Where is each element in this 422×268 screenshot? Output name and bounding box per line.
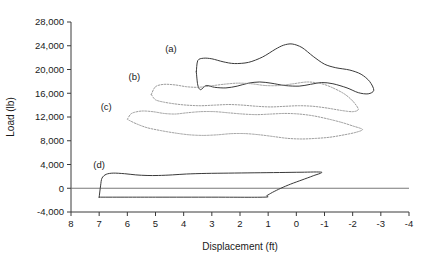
curve-group <box>99 44 374 197</box>
x-tick-label: 7 <box>97 218 102 229</box>
x-tick-label: 0 <box>294 218 299 229</box>
y-tick-label: 16,000 <box>35 88 64 99</box>
y-axis-title: Load (lb) <box>5 97 16 136</box>
y-tick-label: 20,000 <box>35 64 64 75</box>
x-tick-label: -3 <box>377 218 385 229</box>
x-tick-label: 6 <box>125 218 130 229</box>
curve-label-a: (a) <box>165 43 177 54</box>
curve-a <box>196 44 373 94</box>
y-tick-label: 4,000 <box>40 159 64 170</box>
x-tick-label: -2 <box>348 218 356 229</box>
curve-b <box>151 82 358 112</box>
curve-d <box>99 172 322 197</box>
x-tick-label: 1 <box>266 218 271 229</box>
y-tick-label: 0 <box>59 183 64 194</box>
y-tick-label: 24,000 <box>35 40 64 51</box>
y-tick-label-group: 28,00024,00020,00016,00012,0008,0004,000… <box>35 16 64 217</box>
y-tick-group <box>67 22 71 212</box>
x-tick-label: 3 <box>209 218 214 229</box>
x-tick-group <box>71 212 409 216</box>
curve-label-c: (c) <box>101 101 112 112</box>
y-tick-label: 28,000 <box>35 16 64 27</box>
x-tick-label: 2 <box>237 218 242 229</box>
y-axis: 28,00024,00020,00016,00012,0008,0004,000… <box>35 16 71 217</box>
y-tick-label: 8,000 <box>40 135 64 146</box>
x-tick-label: 8 <box>68 218 73 229</box>
x-axis-title: Displacement (ft) <box>202 241 278 252</box>
x-tick-label: 4 <box>181 218 186 229</box>
curve-c <box>127 111 362 139</box>
curve-annotation-group: (a)(b)(c)(d) <box>93 43 176 170</box>
x-axis: 876543210-1-2-3-4 <box>68 212 413 229</box>
x-tick-label: 5 <box>153 218 158 229</box>
curve-label-d: (d) <box>93 159 105 170</box>
y-tick-label: 12,000 <box>35 111 64 122</box>
x-tick-label: -1 <box>320 218 328 229</box>
load-displacement-chart: 28,00024,00020,00016,00012,0008,0004,000… <box>0 0 422 268</box>
x-tick-label-group: 876543210-1-2-3-4 <box>68 218 413 229</box>
y-tick-label: -4,000 <box>37 206 64 217</box>
curve-label-b: (b) <box>129 71 141 82</box>
chart-figure: 28,00024,00020,00016,00012,0008,0004,000… <box>0 0 422 268</box>
x-tick-label: -4 <box>405 218 413 229</box>
